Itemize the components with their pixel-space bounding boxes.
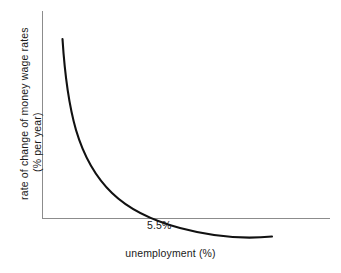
- y-axis-label: rate of change of money wage rates (% pe…: [0, 0, 40, 218]
- y-axis-label-line-1: rate of change of money wage rates: [19, 27, 30, 200]
- phillips-curve-figure: rate of change of money wage rates (% pe…: [0, 0, 341, 273]
- nairu-annotation: 5.5%: [147, 220, 172, 231]
- phillips-curve-line: [63, 39, 273, 238]
- y-axis-label-line-2: (% per year): [32, 112, 43, 172]
- x-axis-label: unemployment (%): [0, 248, 341, 259]
- chart-canvas: [0, 0, 341, 273]
